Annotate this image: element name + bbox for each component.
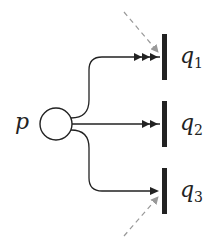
label-q2: q2 bbox=[180, 110, 203, 138]
arc-weight-2-arrowheads bbox=[142, 120, 158, 128]
arc-p-q1 bbox=[71, 57, 160, 118]
label-q1: q1 bbox=[180, 43, 203, 71]
arc-weight-3-arrowheads bbox=[134, 53, 158, 61]
place-p bbox=[40, 108, 72, 140]
q2-subscript: 2 bbox=[194, 122, 203, 138]
dashed-arc-into-q3 bbox=[124, 197, 158, 236]
transition-q3 bbox=[162, 168, 167, 214]
arc-weight-1-arrowhead bbox=[150, 187, 159, 195]
q1-letter: q bbox=[180, 43, 194, 68]
transition-q1 bbox=[162, 34, 167, 80]
dashed-arc-into-q1 bbox=[124, 12, 158, 52]
label-q3: q3 bbox=[180, 177, 203, 205]
transition-q2 bbox=[162, 101, 167, 147]
q2-letter: q bbox=[180, 110, 194, 135]
arc-p-q3 bbox=[71, 130, 152, 191]
label-p: p bbox=[15, 109, 29, 134]
q3-subscript: 3 bbox=[194, 189, 203, 205]
q1-subscript: 1 bbox=[194, 55, 203, 71]
q3-letter: q bbox=[180, 177, 194, 202]
